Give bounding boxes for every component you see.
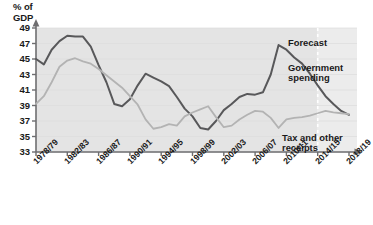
government-spending-label: Government spending: [288, 63, 343, 84]
forecast-label: Forecast: [288, 38, 327, 48]
y-axis-arrow: [33, 19, 40, 27]
tax-receipts-label: Tax and other receipts: [282, 133, 343, 154]
